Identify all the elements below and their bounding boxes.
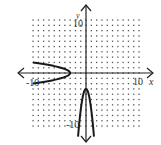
- x-axis-label: x: [149, 77, 153, 87]
- y-min-tick-label: -10: [66, 120, 79, 130]
- y-max-tick-label: 10: [73, 19, 83, 29]
- x-min-tick-label: -10: [26, 78, 39, 88]
- x-max-tick-label: 10: [133, 77, 143, 87]
